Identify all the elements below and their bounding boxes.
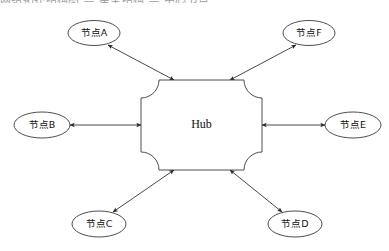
edge-hub-node-d [230,170,282,212]
node-a[interactable]: 节点A [68,21,120,46]
node-c[interactable]: 节点C [72,211,126,237]
node-b[interactable]: 节点B [14,112,70,138]
node-a-label: 节点A [81,27,108,38]
node-f[interactable]: 节点F [283,21,335,46]
node-c-label: 节点C [86,218,113,229]
node-f-label: 节点F [296,27,321,38]
node-d[interactable]: 节点D [268,211,322,237]
hub-label: Hub [191,117,212,131]
edge-hub-node-c [113,170,174,212]
node-e[interactable]: 节点E [325,112,381,138]
node-d-label: 节点D [281,218,308,229]
edge-hub-node-a [108,45,174,80]
star-topology-diagram: Hub 节点A 节点F 节点B 节点E 节点C 节点D [0,0,389,251]
node-b-label: 节点B [29,119,56,130]
hub-node[interactable]: Hub [141,80,262,170]
diagram-canvas: 网络拓扑结构图 — 星型结构 — 中心节点 Hub 节点A [0,0,389,251]
edge-hub-node-f [230,45,296,80]
node-e-label: 节点E [340,119,366,130]
